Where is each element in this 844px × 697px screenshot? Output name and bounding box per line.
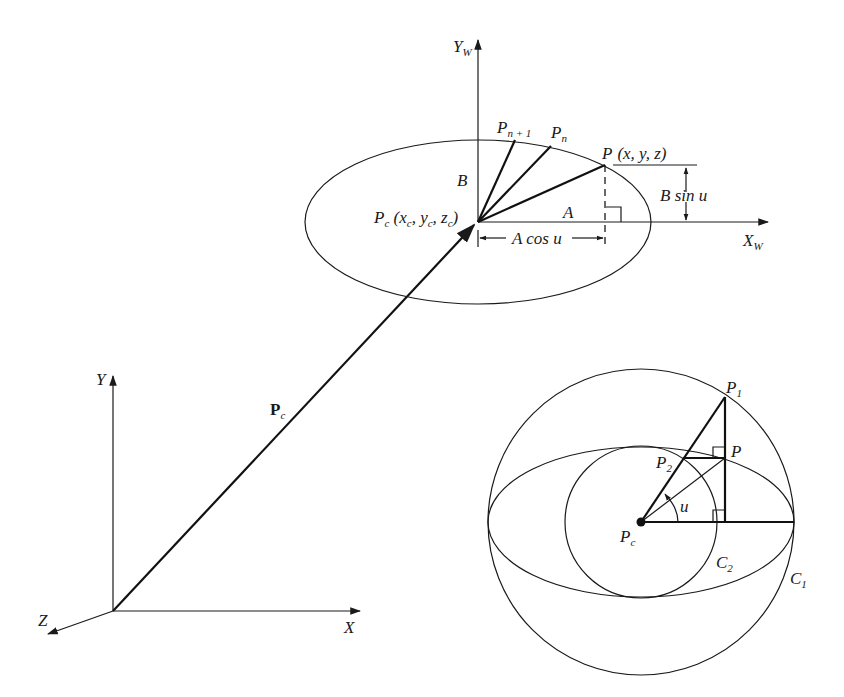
p-xyz-label: P(x, y, z)	[601, 144, 667, 163]
center-vector: Pc	[113, 225, 474, 611]
ellipse-diagram: Y X Z Pc YW XW A cos u	[0, 0, 844, 697]
angle-u-label: u	[680, 497, 689, 516]
spoke-pn1	[478, 140, 515, 222]
pn-label: Pn	[550, 123, 567, 144]
angle-arc	[666, 496, 678, 522]
spoke-pn	[478, 146, 551, 222]
right-angle-bottom	[713, 510, 725, 522]
b-sin-u-label: B sin u	[660, 186, 707, 205]
pn1-label: Pn + 1	[496, 118, 531, 139]
world-z-axis	[48, 611, 113, 634]
semi-minor-label: B	[457, 171, 468, 190]
right-angle-mark	[606, 207, 621, 222]
construction-diagram: Pc P1 P2 P u C2 C1	[488, 369, 807, 675]
local-y-label: YW	[453, 37, 472, 58]
local-frame: YW XW A cos u B sin u A B Pn + 1 Pn P(x	[305, 37, 768, 304]
world-y-label: Y	[96, 370, 107, 389]
a-cos-u-label: A cos u	[511, 229, 562, 248]
construction-pc-label: Pc	[619, 527, 635, 548]
pc-center-dot	[637, 518, 646, 527]
local-x-label: XW	[742, 231, 763, 252]
p-label: P	[730, 442, 741, 461]
spoke-p	[478, 165, 605, 222]
p2-label: P2	[655, 453, 672, 474]
pc-vector-label: Pc	[270, 400, 285, 421]
world-x-label: X	[343, 618, 355, 637]
pc-vector-line	[113, 225, 474, 611]
angle-arrow-icon	[665, 494, 668, 498]
world-axes: Y X Z	[38, 370, 360, 637]
p1-label: P1	[725, 378, 742, 399]
c1-label: C1	[790, 569, 807, 590]
semi-major-label: A	[562, 203, 574, 222]
c2-label: C2	[716, 553, 733, 574]
pc-center-label: Pc (xc, yc, zc)	[373, 208, 459, 229]
world-z-label: Z	[38, 611, 48, 630]
